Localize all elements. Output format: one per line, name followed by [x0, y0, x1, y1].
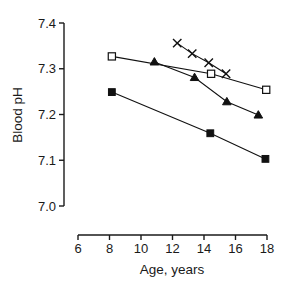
open-square-series-line: [112, 56, 266, 89]
open-square-series: [108, 53, 270, 94]
marker-x-cross: [173, 39, 181, 47]
filled-triangle-series: [150, 58, 263, 118]
y-axis-title: Blood pH: [10, 87, 25, 143]
x-tick-label: 14: [197, 241, 211, 256]
x-tick-label: 8: [106, 241, 113, 256]
y-tick-label: 7.0: [38, 199, 56, 214]
x-axis-tick-labels: 681012141618: [74, 241, 274, 256]
marker-x-cross: [222, 70, 230, 78]
marker-filled-triangle: [150, 58, 159, 65]
marker-open-square: [207, 70, 214, 77]
x-axis-title: Age, years: [140, 262, 205, 277]
y-tick-label: 7.4: [38, 16, 56, 31]
x-tick-label: 16: [228, 241, 242, 256]
x-tick-label: 18: [260, 241, 274, 256]
series-layer: [108, 39, 270, 162]
marker-filled-square: [262, 155, 269, 162]
chart-canvas: 7.07.17.27.37.4 Blood pH 681012141618 Ag…: [0, 0, 295, 290]
blood-ph-vs-age-chart: 7.07.17.27.37.4 Blood pH 681012141618 Ag…: [0, 0, 295, 290]
y-axis-ticks: [59, 23, 64, 206]
filled-square-series: [108, 89, 268, 163]
y-axis-tick-labels: 7.07.17.27.37.4: [38, 16, 56, 214]
marker-open-square: [263, 86, 270, 93]
marker-filled-square: [108, 89, 115, 96]
marker-filled-triangle: [254, 111, 263, 118]
marker-x-cross: [188, 49, 196, 57]
x-axis-ticks: [78, 235, 267, 240]
marker-x-cross: [205, 59, 213, 67]
x-tick-label: 6: [74, 241, 81, 256]
filled-triangle-series-line: [154, 62, 258, 115]
y-tick-label: 7.3: [38, 61, 56, 76]
marker-open-square: [108, 53, 115, 60]
y-tick-label: 7.2: [38, 107, 56, 122]
x-tick-label: 10: [134, 241, 148, 256]
x-axis: 681012141618 Age, years: [74, 235, 274, 277]
y-axis: 7.07.17.27.37.4 Blood pH: [10, 16, 64, 214]
filled-square-series-line: [112, 92, 266, 159]
x-tick-label: 12: [165, 241, 179, 256]
marker-filled-triangle: [223, 97, 232, 104]
y-tick-label: 7.1: [38, 153, 56, 168]
marker-filled-square: [207, 130, 214, 137]
